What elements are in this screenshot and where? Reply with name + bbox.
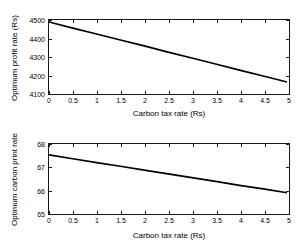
y-tick-mark — [49, 39, 52, 40]
x-tick-mark — [241, 144, 242, 147]
y-tick-mark — [286, 57, 289, 58]
chart-panel-carbon-print-rate: Optimum carbon print rate 6566676800.511… — [0, 121, 308, 243]
y-tick-mark — [49, 94, 52, 95]
y-tick-mark — [286, 214, 289, 215]
y-axis-title-top: Optimum profit rate (Rs) — [11, 15, 19, 101]
y-tick-mark — [49, 57, 52, 58]
x-tick-mark — [169, 211, 170, 214]
y-tick-label: 4100 — [29, 91, 45, 98]
x-tick-mark — [289, 211, 290, 214]
x-tick-mark — [97, 211, 98, 214]
x-tick-label: 0 — [47, 217, 51, 224]
x-axis-title-top: Carbon tax rate (Rs) — [48, 110, 290, 118]
line-chart-top — [49, 20, 289, 94]
x-tick-label: 2 — [143, 97, 147, 104]
data-line-profit-rate — [49, 22, 287, 82]
y-tick-label: 67 — [37, 164, 45, 171]
x-tick-label: 2 — [143, 217, 147, 224]
x-tick-mark — [289, 144, 290, 147]
y-tick-label: 4400 — [29, 35, 45, 42]
x-tick-label: 1.5 — [116, 217, 126, 224]
x-tick-label: 4.5 — [260, 217, 270, 224]
x-tick-label: 3 — [191, 217, 195, 224]
x-tick-label: 0.5 — [68, 217, 78, 224]
y-axis-title-bottom: Optimum carbon print rate — [11, 133, 19, 226]
x-tick-label: 3.5 — [212, 217, 222, 224]
x-tick-mark — [217, 91, 218, 94]
x-tick-mark — [97, 20, 98, 23]
y-tick-label: 4500 — [29, 17, 45, 24]
x-tick-mark — [145, 20, 146, 23]
x-tick-mark — [241, 20, 242, 23]
line-chart-bottom — [49, 144, 289, 214]
x-tick-mark — [145, 91, 146, 94]
x-tick-label: 1.5 — [116, 97, 126, 104]
y-tick-label: 66 — [37, 187, 45, 194]
x-tick-mark — [169, 144, 170, 147]
y-tick-mark — [286, 191, 289, 192]
y-tick-label: 68 — [37, 141, 45, 148]
x-tick-mark — [289, 91, 290, 94]
y-tick-mark — [49, 214, 52, 215]
figure-container: Optimum profit rate (Rs) 410042004300440… — [0, 0, 308, 243]
y-tick-label: 4200 — [29, 72, 45, 79]
x-tick-mark — [217, 144, 218, 147]
x-tick-mark — [193, 211, 194, 214]
x-tick-mark — [193, 144, 194, 147]
x-tick-mark — [49, 20, 50, 23]
axes-frame-top: 4100420043004400450000.511.522.533.544.5… — [48, 19, 290, 95]
x-tick-mark — [97, 91, 98, 94]
x-tick-mark — [169, 20, 170, 23]
y-tick-mark — [49, 167, 52, 168]
y-tick-mark — [49, 191, 52, 192]
x-tick-mark — [241, 91, 242, 94]
x-tick-label: 4 — [239, 97, 243, 104]
x-tick-mark — [217, 211, 218, 214]
x-tick-mark — [121, 144, 122, 147]
x-tick-mark — [97, 144, 98, 147]
y-tick-mark — [286, 94, 289, 95]
x-tick-mark — [217, 20, 218, 23]
x-tick-label: 3 — [191, 97, 195, 104]
x-tick-mark — [121, 20, 122, 23]
x-axis-title-bottom: Carbon tax rate (Rs) — [48, 232, 290, 240]
x-tick-mark — [241, 211, 242, 214]
x-tick-mark — [49, 91, 50, 94]
x-tick-label: 5 — [287, 97, 291, 104]
x-tick-mark — [49, 144, 50, 147]
y-tick-label: 65 — [37, 211, 45, 218]
x-tick-mark — [265, 211, 266, 214]
x-tick-mark — [289, 20, 290, 23]
x-tick-mark — [265, 91, 266, 94]
x-tick-mark — [49, 211, 50, 214]
x-tick-mark — [73, 211, 74, 214]
x-tick-label: 2.5 — [164, 97, 174, 104]
x-tick-label: 4.5 — [260, 97, 270, 104]
data-line-carbon-print-rate — [49, 155, 287, 193]
x-tick-label: 3.5 — [212, 97, 222, 104]
x-tick-mark — [265, 20, 266, 23]
x-tick-mark — [73, 91, 74, 94]
x-tick-mark — [145, 211, 146, 214]
plot-area-bottom — [49, 144, 289, 214]
x-tick-label: 0.5 — [68, 97, 78, 104]
x-tick-mark — [169, 91, 170, 94]
y-tick-mark — [286, 39, 289, 40]
y-tick-mark — [49, 76, 52, 77]
x-tick-label: 1 — [95, 97, 99, 104]
x-tick-label: 1 — [95, 217, 99, 224]
x-tick-label: 4 — [239, 217, 243, 224]
x-tick-mark — [73, 20, 74, 23]
x-tick-label: 0 — [47, 97, 51, 104]
x-tick-mark — [121, 211, 122, 214]
y-tick-mark — [286, 167, 289, 168]
y-tick-mark — [286, 76, 289, 77]
x-tick-label: 5 — [287, 217, 291, 224]
chart-panel-profit-rate: Optimum profit rate (Rs) 410042004300440… — [0, 0, 308, 122]
x-tick-mark — [265, 144, 266, 147]
plot-area-top — [49, 20, 289, 94]
x-tick-mark — [145, 144, 146, 147]
axes-frame-bottom: 6566676800.511.522.533.544.55 — [48, 143, 290, 215]
x-tick-mark — [121, 91, 122, 94]
y-tick-label: 4300 — [29, 54, 45, 61]
